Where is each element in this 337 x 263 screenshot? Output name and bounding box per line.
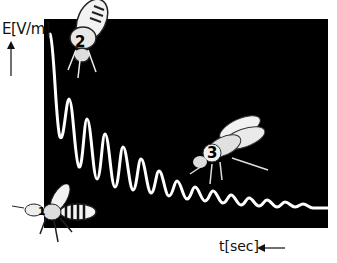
bee-icon xyxy=(58,0,120,82)
y-axis-label: E[V/m] xyxy=(2,20,50,38)
left-arrow-icon xyxy=(257,243,285,253)
bee-number-label: 3 xyxy=(207,144,217,162)
bee-number-label: 1 xyxy=(38,205,46,218)
up-arrow-icon xyxy=(6,40,16,76)
bee-icon xyxy=(10,184,98,246)
bee-number-label: 2 xyxy=(75,33,85,51)
x-axis-label: t[sec] xyxy=(219,238,259,254)
bee-icon xyxy=(182,108,278,188)
